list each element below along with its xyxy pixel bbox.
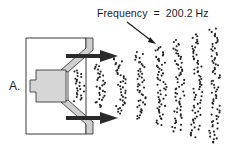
panel-label: A. bbox=[9, 79, 20, 93]
wave-band bbox=[171, 39, 185, 132]
diagram-canvas bbox=[0, 0, 241, 153]
wave-band bbox=[190, 33, 204, 138]
sound-wave-diagram: A. Frequency = 200.2 Hz bbox=[0, 0, 241, 153]
wave-band bbox=[94, 64, 106, 108]
annotation-pointer bbox=[127, 22, 156, 44]
wave-band bbox=[113, 57, 127, 114]
sound-wave-particles bbox=[73, 28, 221, 144]
frequency-annotation: Frequency = 200.2 Hz bbox=[97, 7, 209, 19]
wave-band bbox=[208, 28, 221, 144]
wave-band bbox=[134, 51, 146, 120]
wave-band bbox=[155, 46, 168, 126]
